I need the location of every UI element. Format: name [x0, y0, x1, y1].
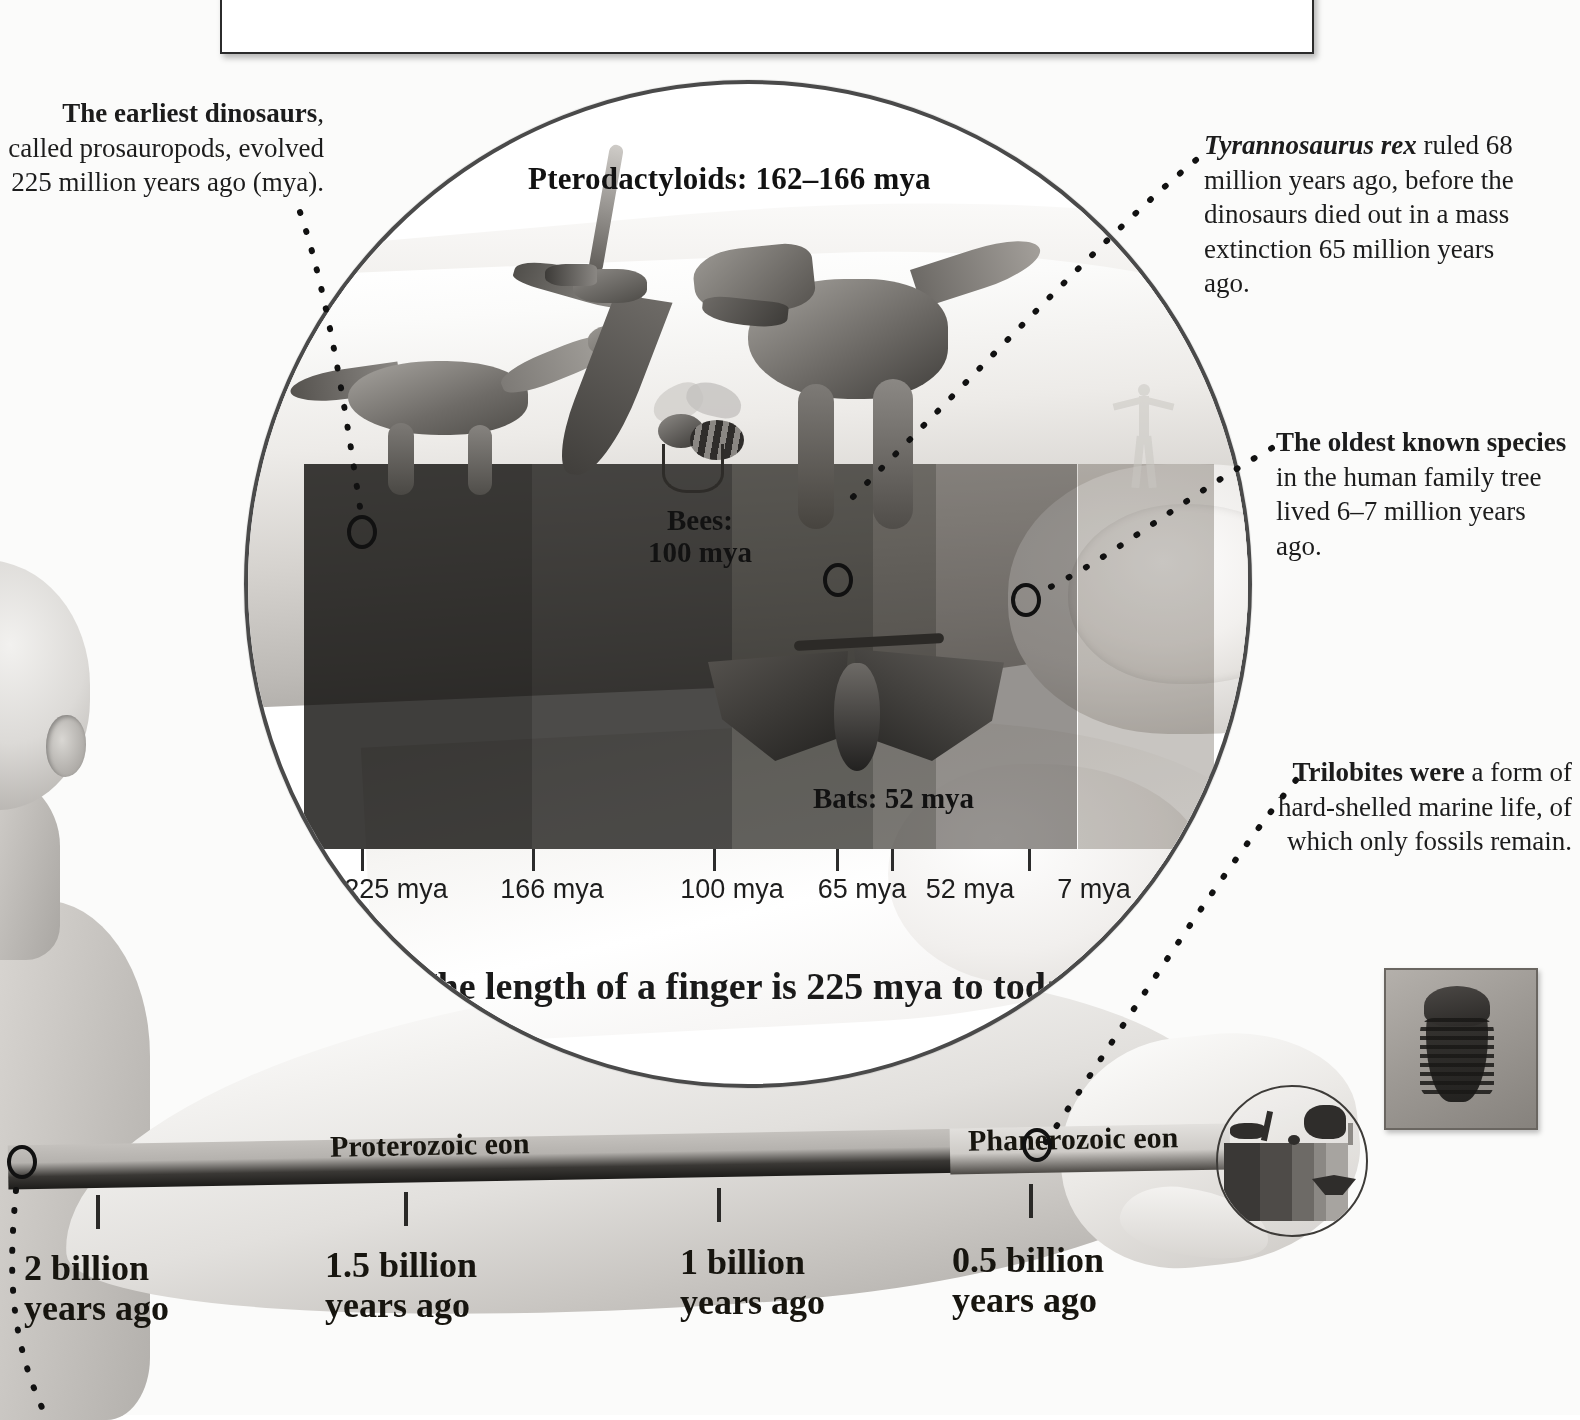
trilobite-segments [1420, 1018, 1494, 1098]
chart-ticklabel-225mya: 225 mya [344, 874, 448, 905]
callout-trilobites: Trilobites were a form of hard-shelled m… [1272, 755, 1572, 859]
inset-band-3 [1292, 1143, 1314, 1221]
trilobite-fossil-image [1384, 968, 1538, 1130]
eon-label-phanerozoic: Phanerozoic eon [968, 1120, 1179, 1158]
eon-ticklabel-1bya: 1 billion years ago [680, 1242, 825, 1323]
chart-ticklabel-100mya: 100 mya [680, 874, 784, 905]
bee-illustration [628, 384, 758, 499]
label-pterodactyloids: Pterodactyloids: 162–166 mya [528, 162, 931, 197]
callout-oldest-bold: The oldest known species [1276, 427, 1566, 457]
callout-tyrannosaurus-rex: Tyrannosaurus rex ruled 68 million years… [1204, 128, 1534, 301]
human-body-ear [46, 715, 86, 777]
callout-trilobites-bold: Trilobites were [1293, 757, 1465, 787]
chart-ticklabel-166mya: 166 mya [500, 874, 604, 905]
eon-ticklabel-0-5bya: 0.5 billion years ago [952, 1240, 1104, 1321]
chart-ticklabel-65mya: 65 mya [818, 874, 907, 905]
chart-band-7mya [1078, 464, 1215, 849]
magnifier-circle: 225 mya 166 mya 100 mya 65 mya 52 mya 7 … [244, 80, 1252, 1088]
chart-tick-7mya [1028, 849, 1031, 871]
chart-tick-225mya [361, 849, 364, 871]
eon-label-proterozoic: Proterozoic eon [330, 1126, 530, 1163]
callout-trex-species-name: Tyrannosaurus rex [1204, 130, 1417, 160]
chart-tick-100mya [713, 849, 716, 871]
chart-tick-166mya [532, 849, 535, 871]
eon-ticklabel-1-5bya: 1.5 billion years ago [325, 1245, 477, 1326]
chart-ticklabel-52mya: 52 mya [926, 874, 1015, 905]
chart-ticklabel-7mya: 7 mya [1057, 874, 1131, 905]
eon-tick-1-5bya [404, 1192, 408, 1226]
label-bees: Bees: 100 mya [648, 504, 752, 569]
fingertip-inset-circle [1216, 1085, 1368, 1237]
human-body-neck [0, 770, 60, 960]
magnifier-caption: The length of a finger is 225 mya to tod… [248, 964, 1248, 1010]
bat-illustration [708, 629, 1008, 789]
inset-bee-icon [1288, 1135, 1300, 1145]
marker-225mya [347, 515, 377, 549]
top-panel [220, 0, 1314, 54]
eon-tick-0-5bya [1029, 1184, 1033, 1218]
chart-band-225mya [304, 464, 532, 849]
callout-oldest-rest: in the human family tree lived 6–7 milli… [1276, 462, 1541, 561]
eon-tick-2bya [96, 1195, 100, 1229]
inset-trex-icon [1304, 1105, 1346, 1139]
eon-ticklabel-2bya: 2 billion years ago [24, 1248, 169, 1329]
inset-human-icon [1348, 1123, 1353, 1145]
label-bats: Bats: 52 mya [813, 782, 974, 814]
timeline-origin-marker [7, 1145, 37, 1179]
callout-prosauropods: The earliest dinosaurs, called prosaurop… [0, 96, 324, 200]
inset-band-2 [1260, 1143, 1292, 1221]
callout-oldest-known-species: The oldest known species in the human fa… [1276, 425, 1576, 563]
human-scale-silhouette [1113, 384, 1173, 494]
marker-68mya [823, 563, 853, 597]
eon-tick-1bya [717, 1188, 721, 1222]
inset-band-1 [1224, 1143, 1260, 1221]
chart-tick-52mya [891, 849, 894, 871]
chart-tick-65mya [836, 849, 839, 871]
human-body-head [0, 560, 90, 810]
callout-prosauropods-bold: The earliest dinosaurs [62, 98, 317, 128]
timeline-trilobite-marker [1022, 1128, 1052, 1162]
inset-pterodactyloid-icon [1261, 1111, 1273, 1142]
marker-7mya [1011, 583, 1041, 617]
